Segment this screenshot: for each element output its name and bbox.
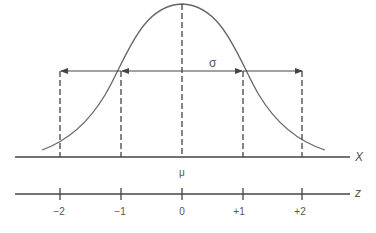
- z-tick-label: 0: [179, 206, 185, 217]
- z-tick-label: +1: [233, 206, 245, 217]
- mu-label: μ: [179, 167, 185, 178]
- sd-guidelines: [60, 4, 302, 157]
- z-axis-label: z: [354, 186, 361, 200]
- z-tick-label: +2: [294, 206, 306, 217]
- normal-distribution-diagram: σ X μ z −2 −1 0 +1 +2: [0, 0, 376, 233]
- sigma-label: σ: [209, 56, 217, 70]
- x-axis-label: X: [354, 150, 364, 164]
- z-tick-label: −2: [53, 206, 65, 217]
- bell-curve: [42, 4, 325, 150]
- z-tick-label: −1: [114, 206, 126, 217]
